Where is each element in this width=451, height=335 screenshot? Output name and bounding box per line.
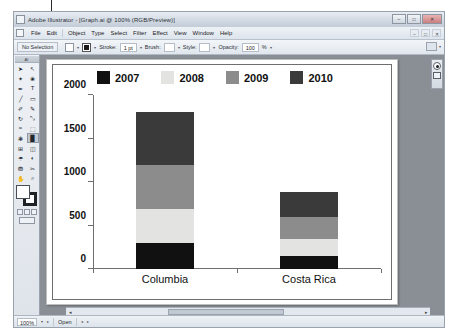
menu-item-effect[interactable]: Effect <box>149 29 170 37</box>
control-bar-overflow-caret[interactable]: ▾ <box>439 44 441 49</box>
legend-item-2010[interactable]: 2010 <box>290 71 332 84</box>
legend-swatch-2007 <box>97 71 110 84</box>
pen-tool-icon[interactable]: ✒ <box>15 83 27 93</box>
menu-item-edit[interactable]: Edit <box>44 29 60 37</box>
maximize-button[interactable]: □ <box>407 14 421 24</box>
y-tick-text-1500: 1500 <box>64 122 86 133</box>
type-tool-icon[interactable]: T <box>27 83 39 93</box>
gradient-mode-icon[interactable] <box>24 209 30 215</box>
y-tick-text-2000: 2000 <box>64 79 86 90</box>
menu-item-select[interactable]: Select <box>107 29 130 37</box>
zoom-tool-icon[interactable]: ⌕ <box>27 173 39 183</box>
bar-columbia[interactable]: Columbia <box>136 112 194 269</box>
style-selector[interactable] <box>199 43 210 52</box>
menu-item-view[interactable]: View <box>171 29 190 37</box>
mesh-tool-icon[interactable]: ⊞ <box>15 143 27 153</box>
menu-item-filter[interactable]: Filter <box>130 29 149 37</box>
menu-item-window[interactable]: Window <box>190 29 217 37</box>
stroke-color-swatch[interactable] <box>82 43 91 52</box>
scroll-left-arrow[interactable]: ◂ <box>66 308 74 316</box>
fill-dropdown-caret[interactable]: ▾ <box>77 45 79 50</box>
bar-segment-columbia-2008[interactable] <box>136 209 194 243</box>
status-prev-arrow[interactable]: ◂ <box>81 319 83 324</box>
none-mode-icon[interactable] <box>31 209 37 215</box>
stroke-weight-caret[interactable]: ▾ <box>140 45 142 50</box>
brush-caret[interactable]: ▾ <box>178 45 180 50</box>
pencil-tool-icon[interactable]: ✎ <box>27 103 39 113</box>
free-transform-tool-icon[interactable]: ⬚ <box>27 123 39 133</box>
close-button[interactable]: ✕ <box>422 14 442 24</box>
y-tick-mark-500 <box>88 225 93 226</box>
blend-tool-icon[interactable]: ◐ <box>27 153 39 163</box>
direct-selection-tool-icon[interactable]: ↖ <box>27 63 39 73</box>
zoom-dropdown-caret[interactable]: ▾ <box>41 319 43 324</box>
y-tick-mark-1500 <box>88 138 93 139</box>
document-window-controls: – □ ✕ <box>410 29 441 37</box>
opacity-caret[interactable]: ▾ <box>270 45 272 50</box>
status-separator-2 <box>76 318 77 326</box>
minimize-button[interactable]: – <box>392 14 406 24</box>
stroke-dropdown-caret[interactable]: ▾ <box>94 45 96 50</box>
doc-restore-button[interactable]: □ <box>421 29 430 37</box>
lasso-tool-icon[interactable]: ❀ <box>27 73 39 83</box>
scroll-right-arrow[interactable]: ▸ <box>422 308 430 316</box>
artboard[interactable]: 2007 2008 2009 <box>46 59 398 305</box>
menu-item-help[interactable]: Help <box>217 29 235 37</box>
control-bar-right-group: ▾ <box>426 42 441 51</box>
legend-item-2008[interactable]: 2008 <box>161 71 203 84</box>
fill-color-swatch[interactable] <box>65 43 74 52</box>
bar-segment-columbia-2009[interactable] <box>136 165 194 209</box>
status-next-arrow[interactable]: ▸ <box>87 319 89 324</box>
zoom-level-input[interactable]: 100% <box>17 318 37 326</box>
doc-minimize-button[interactable]: – <box>410 29 419 37</box>
legend-item-2007[interactable]: 2007 <box>97 71 139 84</box>
bar-segment-columbia-2007[interactable] <box>136 243 194 269</box>
category-label-costa-rica: Costa Rica <box>280 273 338 285</box>
color-mode-icon[interactable] <box>17 209 23 215</box>
graph-tool-icon[interactable]: █ <box>27 133 39 143</box>
style-caret[interactable]: ▾ <box>213 45 215 50</box>
paintbrush-tool-icon[interactable]: ✐ <box>15 103 27 113</box>
doc-close-button[interactable]: ✕ <box>432 29 441 37</box>
symbol-sprayer-tool-icon[interactable]: ❃ <box>15 133 27 143</box>
application-icon <box>16 15 25 24</box>
bar-segment-costa-rica-2008[interactable] <box>280 239 338 256</box>
line-segment-tool-icon[interactable]: ╱ <box>15 93 27 103</box>
color-panel-icon[interactable] <box>433 62 441 70</box>
bar-segment-costa-rica-2009[interactable] <box>280 217 338 240</box>
stroke-weight-input[interactable]: 1 pt <box>120 43 137 52</box>
rotate-tool-icon[interactable]: ↻ <box>15 113 27 123</box>
legend-item-2009[interactable]: 2009 <box>226 71 268 84</box>
hand-tool-icon[interactable]: ✋ <box>15 173 27 183</box>
bar-costa-rica[interactable]: Costa Rica <box>280 192 338 269</box>
warp-tool-icon[interactable]: ≈ <box>15 123 27 133</box>
opacity-input[interactable]: 100 <box>242 43 259 52</box>
menu-item-type[interactable]: Type <box>88 29 107 37</box>
eyedropper-tool-icon[interactable]: ☂ <box>15 153 27 163</box>
bar-segment-costa-rica-2010[interactable] <box>280 192 338 217</box>
bar-segment-columbia-2010[interactable] <box>136 112 194 164</box>
horizontal-scrollbar[interactable]: ◂ ▸ <box>66 307 430 315</box>
swatches-panel-icon[interactable] <box>433 72 441 79</box>
screen-mode-button[interactable] <box>19 217 35 224</box>
menu-item-file[interactable]: File <box>28 29 44 37</box>
slice-tool-icon[interactable]: ✂ <box>27 163 39 173</box>
document-setup-icon[interactable] <box>426 42 437 51</box>
scale-tool-icon[interactable]: ⤡ <box>27 113 39 123</box>
rectangle-tool-icon[interactable]: ▭ <box>27 93 39 103</box>
canvas-area[interactable]: 2007 2008 2009 <box>40 55 444 315</box>
collapsed-panel-group[interactable] <box>431 59 443 89</box>
toolbox-header[interactable]: AI <box>15 56 39 63</box>
bar-segment-costa-rica-2007[interactable] <box>280 256 338 269</box>
toolbox-panel: AI ➤ ↖ ✦ ❀ ✒ T ╱ ▭ ✐ ✎ ↻ ⤡ ≈ ⬚ ❃ <box>14 55 40 315</box>
selection-tool-icon[interactable]: ➤ <box>15 63 27 73</box>
menu-item-object[interactable]: Object <box>62 29 88 37</box>
toolbox-fill-swatch[interactable] <box>16 185 30 199</box>
unit-caret-icon[interactable]: ▸ <box>47 319 49 324</box>
horizontal-scroll-thumb[interactable] <box>168 309 284 315</box>
selection-status-label: No Selection <box>17 42 58 52</box>
magic-wand-tool-icon[interactable]: ✦ <box>15 73 27 83</box>
gradient-tool-icon[interactable]: ◫ <box>27 143 39 153</box>
brush-selector[interactable] <box>164 43 175 52</box>
live-paint-bucket-tool-icon[interactable]: ⛃ <box>15 163 27 173</box>
